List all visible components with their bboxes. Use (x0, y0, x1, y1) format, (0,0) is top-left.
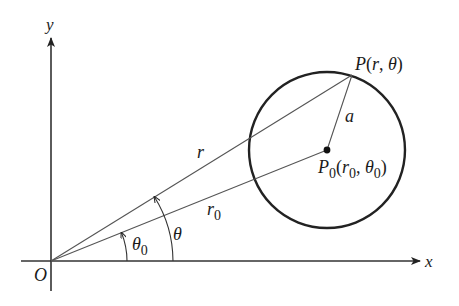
point-p0-dot (324, 147, 331, 154)
angle-theta0-label: θ0 (132, 234, 148, 258)
ray-r (51, 75, 352, 261)
angle-theta-label: θ (173, 224, 182, 244)
segment-r-label: r (197, 142, 205, 162)
angle-arc-theta (155, 197, 174, 261)
polar-circle-diagram: y x O P(r, θ) P0(r0, θ0) r r0 a θ θ0 (0, 0, 459, 306)
angle-arc-theta0 (122, 233, 128, 261)
point-p0-label: P0(r0, θ0) (317, 157, 387, 181)
segment-r0-label: r0 (207, 199, 221, 223)
x-axis-label: x (424, 252, 433, 271)
origin-label: O (34, 265, 47, 285)
point-p-label: P(r, θ) (354, 54, 403, 75)
y-axis-label: y (44, 15, 54, 34)
radius-a-label: a (345, 106, 354, 126)
ray-r0 (51, 150, 327, 261)
